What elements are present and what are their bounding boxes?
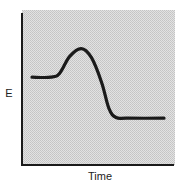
x-axis-label: Time bbox=[88, 170, 112, 182]
y-axis-label: E bbox=[5, 87, 12, 99]
plot-background bbox=[22, 10, 175, 165]
energy-diagram: E Time bbox=[0, 0, 185, 183]
